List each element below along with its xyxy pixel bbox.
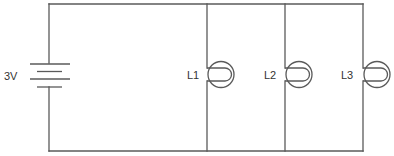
lamp-l2-label: L2 [264,69,276,81]
lamp-branch-l2: L2 [264,4,312,151]
circuit-diagram: 3V L1 L2 L3 [0,0,394,156]
lamp-l3-bulb-icon [364,62,390,88]
lamp-l2-bulb-icon [286,62,312,88]
lamp-l1-label: L1 [187,69,199,81]
main-wires [49,4,363,151]
lamp-l3-label: L3 [341,69,353,81]
lamp-branch-l1: L1 [187,4,234,151]
lamp-branch-l3: L3 [341,4,390,151]
battery-label: 3V [4,70,18,82]
battery: 3V [4,64,70,87]
lamp-l1-bulb-icon [208,62,234,88]
